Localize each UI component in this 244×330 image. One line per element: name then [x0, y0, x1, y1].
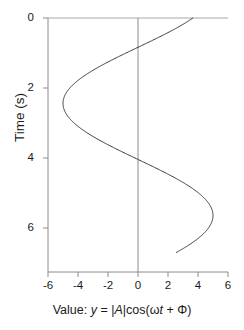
y-tick-label-0: 0 — [8, 12, 34, 24]
y-axis-title: Time (s) — [12, 78, 27, 158]
x-axis-title-variable-a: A — [114, 303, 122, 317]
x-tick-label-6: 6 — [215, 280, 241, 292]
x-axis-ticks — [48, 272, 228, 277]
y-tick-label-6: 6 — [8, 222, 34, 234]
x-axis-title-equals: = | — [97, 303, 115, 317]
x-axis-title-tail: + Φ) — [163, 303, 191, 317]
x-tick-label-0: 0 — [125, 280, 151, 292]
x-tick-label-neg2: -2 — [95, 280, 121, 292]
y-axis-ticks — [43, 18, 48, 228]
x-tick-label-2: 2 — [155, 280, 181, 292]
x-axis-title: Value: y = |A|cos(ωt + Φ) — [10, 303, 234, 317]
x-tick-label-neg6: -6 — [35, 280, 61, 292]
x-axis-title-function: |cos(ω — [123, 303, 160, 317]
chart-figure: 0 2 4 6 -6 -4 -2 0 2 4 6 Time (s) Value:… — [0, 0, 244, 330]
x-tick-label-neg4: -4 — [65, 280, 91, 292]
x-axis-title-prefix: Value: — [53, 303, 91, 317]
x-tick-label-4: 4 — [185, 280, 211, 292]
